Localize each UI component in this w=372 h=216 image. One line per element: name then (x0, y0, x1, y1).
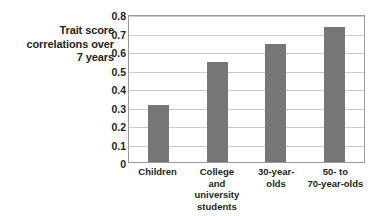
bar-chart-figure: Trait score correlations over 7 years 0.… (0, 0, 372, 216)
y-tick-label: 0.3 (96, 104, 126, 114)
y-tick-label: 0.7 (96, 30, 126, 40)
y-tick-label: 0.5 (96, 67, 126, 77)
x-axis-category-labels: ChildrenCollegeanduniversitystudents30-y… (128, 166, 365, 212)
bar-slot (129, 16, 188, 162)
y-tick-label: 0 (96, 159, 126, 169)
x-category-label: Children (128, 166, 187, 178)
x-category-label-line: 70-year-olds (307, 178, 364, 190)
y-axis-tick-labels: 0.80.70.60.50.40.30.20.10 (96, 16, 126, 164)
x-category-label-line: College (188, 166, 245, 178)
x-category-label-line: Children (129, 166, 186, 178)
x-category-label: 30-year-olds (247, 166, 306, 189)
bar (148, 105, 169, 162)
x-category-label-line: 30-year- (248, 166, 305, 178)
bar (207, 62, 228, 162)
y-tick-label: 0.4 (96, 85, 126, 95)
x-category-label: Collegeanduniversitystudents (187, 166, 246, 212)
y-tick-label: 0.2 (96, 122, 126, 132)
x-category-label-line: 50- to (307, 166, 364, 178)
x-category-label-line: university (188, 189, 245, 201)
x-category-label: 50- to70-year-olds (306, 166, 365, 189)
plot-area (128, 15, 365, 163)
y-tick-label: 0.8 (96, 11, 126, 21)
bar-slot (305, 16, 364, 162)
bar-slot (247, 16, 306, 162)
bar (265, 44, 286, 162)
y-tick-label: 0.6 (96, 48, 126, 58)
x-category-label-line: olds (248, 178, 305, 190)
x-category-label-line: and (188, 178, 245, 190)
bar-slot (188, 16, 247, 162)
y-tick-label: 0.1 (96, 141, 126, 151)
bar-series (129, 16, 364, 162)
bar (324, 27, 345, 162)
x-category-label-line: students (188, 201, 245, 213)
